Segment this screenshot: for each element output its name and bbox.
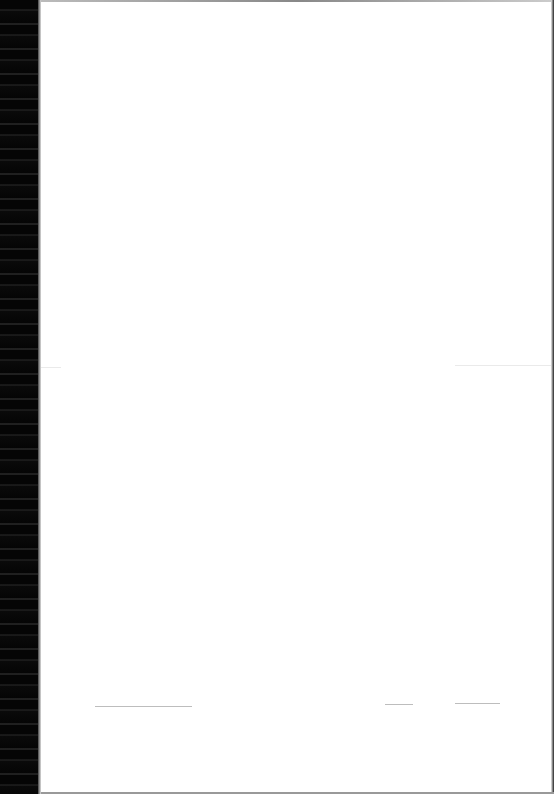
page-top-edge bbox=[41, 0, 554, 2]
fold-mark-left bbox=[41, 367, 61, 368]
signature-line-right bbox=[455, 703, 500, 704]
signature-line-left bbox=[95, 706, 192, 707]
document-page bbox=[41, 0, 551, 794]
signature-line-middle bbox=[385, 704, 413, 705]
fold-mark-right bbox=[455, 365, 551, 366]
scan-binding-edge bbox=[0, 0, 38, 794]
